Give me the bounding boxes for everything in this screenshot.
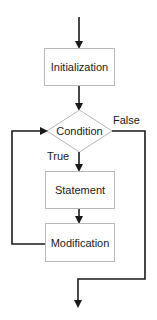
edge-modification-condition-loop <box>12 131 46 244</box>
edge-label-true: True <box>47 150 69 162</box>
node-initialization: Initialization <box>45 49 115 86</box>
node-modification-label: Modification <box>51 237 110 249</box>
node-condition-label: Condition <box>56 125 102 137</box>
flowchart: Initialization Condition True Statement … <box>0 0 157 320</box>
node-statement-label: Statement <box>55 184 105 196</box>
node-modification: Modification <box>46 224 115 262</box>
node-condition: Condition <box>47 110 112 152</box>
node-statement: Statement <box>46 172 115 209</box>
edge-label-false: False <box>113 114 140 126</box>
node-initialization-label: Initialization <box>51 61 108 73</box>
edge-condition-exit <box>78 131 145 306</box>
